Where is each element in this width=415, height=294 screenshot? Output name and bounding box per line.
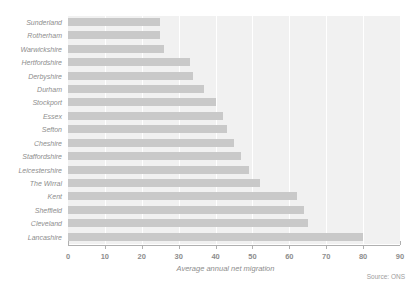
axis-tick-label: 90 bbox=[388, 252, 412, 261]
category-label: Derbyshire bbox=[28, 70, 62, 83]
bar-chart: SunderlandRotherhamWarwickshireHertfords… bbox=[0, 0, 415, 294]
bar-row bbox=[68, 123, 400, 136]
bar-row bbox=[68, 137, 400, 150]
bar bbox=[68, 72, 193, 80]
category-label: Kent bbox=[48, 190, 62, 203]
bar bbox=[68, 112, 223, 120]
bar bbox=[68, 219, 308, 227]
bar bbox=[68, 192, 297, 200]
axis-tick bbox=[252, 245, 253, 249]
axis-tick bbox=[400, 241, 401, 245]
axis-tick-label: 30 bbox=[167, 252, 191, 261]
bar-row bbox=[68, 204, 400, 217]
axis-tick-label: 50 bbox=[240, 252, 264, 261]
bar-row bbox=[68, 190, 400, 203]
category-label: Sefton bbox=[42, 123, 62, 136]
bar-row bbox=[68, 29, 400, 42]
bar-series bbox=[68, 16, 400, 244]
axis-tick bbox=[216, 245, 217, 249]
bar-row bbox=[68, 110, 400, 123]
bar-row bbox=[68, 217, 400, 230]
bar bbox=[68, 85, 204, 93]
bar bbox=[68, 233, 363, 241]
bar-row bbox=[68, 83, 400, 96]
category-label: Cheshire bbox=[34, 137, 62, 150]
axis-tick-label: 80 bbox=[351, 252, 375, 261]
axis-tick bbox=[179, 245, 180, 249]
category-label: The Wirral bbox=[30, 177, 62, 190]
category-label: Stockport bbox=[32, 96, 62, 109]
bar bbox=[68, 206, 304, 214]
axis-tick bbox=[68, 241, 69, 245]
axis-tick bbox=[105, 245, 106, 249]
source-note: Source: ONS bbox=[367, 273, 405, 280]
axis-tick-label: 20 bbox=[130, 252, 154, 261]
x-axis-line bbox=[68, 245, 400, 246]
category-label: Durham bbox=[37, 83, 62, 96]
bar bbox=[68, 125, 227, 133]
bar bbox=[68, 18, 160, 26]
category-label: Hertfordshire bbox=[22, 56, 62, 69]
category-axis-labels: SunderlandRotherhamWarwickshireHertfords… bbox=[0, 16, 66, 244]
axis-tick-label: 60 bbox=[277, 252, 301, 261]
category-label: Lancashire bbox=[28, 231, 62, 244]
x-axis-title: Average annual net migration bbox=[0, 264, 415, 273]
axis-tick bbox=[326, 245, 327, 249]
bar-row bbox=[68, 56, 400, 69]
axis-tick-label: 70 bbox=[314, 252, 338, 261]
bar-row bbox=[68, 177, 400, 190]
axis-tick-label: 0 bbox=[56, 252, 80, 261]
bar bbox=[68, 139, 234, 147]
bar-row bbox=[68, 16, 400, 29]
axis-tick-label: 10 bbox=[93, 252, 117, 261]
bar-row bbox=[68, 70, 400, 83]
bar bbox=[68, 152, 241, 160]
category-label: Sheffield bbox=[35, 204, 62, 217]
category-label: Staffordshire bbox=[22, 150, 62, 163]
bar bbox=[68, 31, 160, 39]
category-label: Sunderland bbox=[26, 16, 62, 29]
gridline bbox=[400, 16, 401, 244]
bar bbox=[68, 45, 164, 53]
category-label: Leicestershire bbox=[18, 164, 62, 177]
bar bbox=[68, 98, 216, 106]
axis-tick bbox=[363, 245, 364, 249]
category-label: Warwickshire bbox=[21, 43, 63, 56]
axis-tick-label: 40 bbox=[204, 252, 228, 261]
bar bbox=[68, 166, 249, 174]
bar-row bbox=[68, 43, 400, 56]
bar-row bbox=[68, 231, 400, 244]
bar-row bbox=[68, 150, 400, 163]
plot-area bbox=[68, 16, 400, 244]
bar bbox=[68, 179, 260, 187]
bar bbox=[68, 58, 190, 66]
category-label: Rotherham bbox=[27, 29, 62, 42]
axis-tick bbox=[289, 245, 290, 249]
bar-row bbox=[68, 164, 400, 177]
axis-tick bbox=[142, 245, 143, 249]
category-label: Essex bbox=[43, 110, 62, 123]
bar-row bbox=[68, 96, 400, 109]
category-label: Cleveland bbox=[31, 217, 62, 230]
